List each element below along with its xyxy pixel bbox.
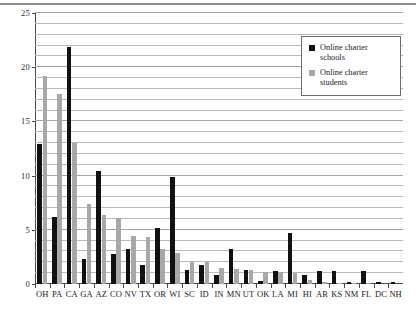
x-axis-tick-mark xyxy=(123,284,124,288)
bar-students xyxy=(263,272,268,284)
bar-schools xyxy=(96,171,101,284)
x-axis-tick-mark xyxy=(50,284,51,288)
x-axis-tick-mark xyxy=(109,284,110,288)
bar-schools xyxy=(361,271,366,284)
bar-students xyxy=(205,262,210,284)
bar-schools xyxy=(317,271,322,284)
legend-label-students: Online charterstudents xyxy=(320,68,368,88)
bar-students xyxy=(102,215,107,284)
bar-schools xyxy=(244,270,249,284)
bar-students xyxy=(131,236,136,284)
bar-group xyxy=(226,13,241,284)
x-axis-tick-mark xyxy=(359,284,360,288)
chart-container: 0510152025 OHPACAGAAZCONVTXORWISCIDINMNU… xyxy=(0,0,416,317)
bar-students xyxy=(293,273,298,284)
y-axis-tick-mark xyxy=(32,121,35,122)
bar-students xyxy=(366,283,371,284)
x-axis-tick-mark xyxy=(241,284,242,288)
bar-students xyxy=(249,270,254,284)
x-axis-tick-mark xyxy=(182,284,183,288)
x-axis-tick-mark xyxy=(167,284,168,288)
bar-schools xyxy=(37,144,42,284)
y-axis-tick-label: 20 xyxy=(4,62,30,72)
bar-group xyxy=(153,13,168,284)
bar-schools xyxy=(214,275,219,284)
bar-group xyxy=(94,13,109,284)
bar-group xyxy=(256,13,271,284)
x-axis-tick-mark xyxy=(64,284,65,288)
bar-group xyxy=(79,13,94,284)
bar-schools xyxy=(155,228,160,284)
bar-schools xyxy=(126,249,131,284)
bar-group xyxy=(271,13,286,284)
bar-schools xyxy=(273,271,278,284)
bar-schools xyxy=(170,177,175,284)
bar-students xyxy=(337,283,342,284)
x-axis-tick-mark xyxy=(315,284,316,288)
x-axis-tick-mark xyxy=(79,284,80,288)
x-axis-tick-mark xyxy=(212,284,213,288)
y-axis-tick-mark xyxy=(32,230,35,231)
bar-students xyxy=(219,268,224,284)
x-axis-tick-mark xyxy=(329,284,330,288)
legend-label-schools: Online charterschools xyxy=(320,43,368,63)
y-axis-tick-label: 25 xyxy=(4,8,30,18)
bar-schools xyxy=(376,282,381,284)
bar-schools xyxy=(288,233,293,284)
bar-students xyxy=(234,269,239,284)
bar-schools xyxy=(52,217,57,284)
legend-swatch-students-icon xyxy=(309,70,315,76)
x-axis-tick-mark xyxy=(344,284,345,288)
x-axis-tick-label: NH xyxy=(384,289,408,299)
legend-swatch-schools-icon xyxy=(309,45,315,51)
y-axis-tick-mark xyxy=(32,176,35,177)
bar-group xyxy=(212,13,227,284)
y-axis-tick-label: 0 xyxy=(4,279,30,289)
bar-group xyxy=(285,13,300,284)
bar-schools xyxy=(140,265,145,285)
bar-group xyxy=(123,13,138,284)
bar-group xyxy=(50,13,65,284)
y-axis-tick-mark xyxy=(32,13,35,14)
chart-legend: Online charterschools Online charterstud… xyxy=(301,36,401,96)
bar-students xyxy=(116,218,121,284)
x-axis-tick-mark xyxy=(300,284,301,288)
bar-group xyxy=(167,13,182,284)
bar-students xyxy=(72,143,77,284)
bar-schools xyxy=(391,282,396,284)
bar-schools xyxy=(82,259,87,284)
bar-schools xyxy=(347,282,352,284)
x-axis-tick-mark xyxy=(94,284,95,288)
bar-students xyxy=(278,272,283,284)
x-axis-tick-mark xyxy=(256,284,257,288)
x-axis-tick-mark xyxy=(374,284,375,288)
bar-students xyxy=(175,253,180,284)
legend-item-students: Online charterstudents xyxy=(309,68,395,88)
y-axis-tick-label: 15 xyxy=(4,116,30,126)
bar-schools xyxy=(185,270,190,284)
bar-schools xyxy=(199,265,204,285)
bar-group xyxy=(182,13,197,284)
x-axis-tick-mark xyxy=(197,284,198,288)
bar-students xyxy=(146,237,151,284)
bar-group xyxy=(64,13,79,284)
x-axis-tick-mark xyxy=(271,284,272,288)
bar-students xyxy=(87,204,92,284)
bar-schools xyxy=(67,47,72,284)
y-axis-tick-mark xyxy=(32,67,35,68)
bar-group xyxy=(35,13,50,284)
x-axis-tick-mark xyxy=(388,284,389,288)
y-axis-tick-mark xyxy=(32,284,35,285)
x-axis-tick-mark xyxy=(35,284,36,288)
x-axis-tick-mark xyxy=(285,284,286,288)
y-axis-tick-label: 5 xyxy=(4,225,30,235)
bar-students xyxy=(57,94,62,284)
bar-students xyxy=(190,262,195,284)
bar-group xyxy=(109,13,124,284)
x-axis-tick-mark xyxy=(226,284,227,288)
bar-schools xyxy=(111,254,116,284)
x-axis-tick-mark xyxy=(153,284,154,288)
bar-students xyxy=(43,76,48,284)
x-axis-tick-mark xyxy=(138,284,139,288)
bar-schools xyxy=(258,281,263,284)
